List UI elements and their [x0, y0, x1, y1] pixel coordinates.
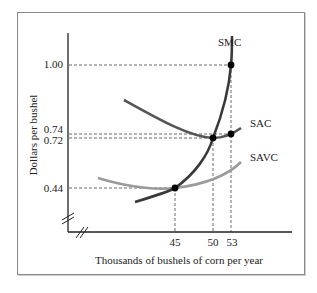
cost-curves-chart: 1.00 0.74 0.72 0.44 45 50 53 Thousands o… — [0, 0, 317, 293]
smc-label: SMC — [218, 36, 241, 48]
x-axis-title: Thousands of bushels of corn per year — [95, 254, 263, 266]
point-50-072 — [210, 135, 217, 142]
point-53-100 — [228, 62, 235, 69]
savc-curve — [98, 162, 241, 189]
point-45-044 — [172, 185, 179, 192]
point-53-074 — [228, 131, 235, 138]
highlight-points — [172, 62, 235, 192]
y-tick-0-44: 0.44 — [44, 182, 64, 194]
savc-label: SAVC — [250, 151, 278, 163]
x-tick-53: 53 — [227, 236, 239, 248]
y-axis-title: Dollars per bushel — [27, 95, 39, 176]
sac-label: SAC — [250, 117, 271, 129]
x-tick-45: 45 — [170, 236, 182, 248]
axis-break-marks — [62, 213, 88, 238]
reference-lines — [69, 65, 231, 232]
y-tick-0-72: 0.72 — [44, 134, 63, 146]
y-tick-1-00: 1.00 — [44, 58, 64, 70]
axes — [68, 33, 292, 232]
x-tick-50: 50 — [208, 236, 220, 248]
